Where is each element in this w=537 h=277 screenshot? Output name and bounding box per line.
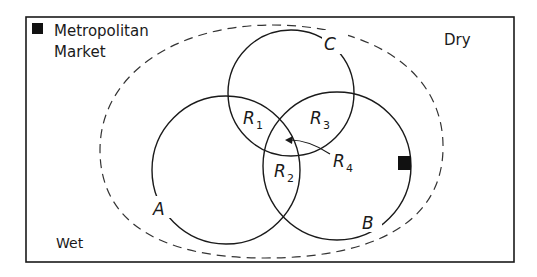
svg-text:2: 2 bbox=[287, 172, 294, 185]
arrowhead-icon bbox=[285, 136, 293, 144]
svg-text:R: R bbox=[274, 161, 286, 181]
legend-line-2: Market bbox=[54, 43, 106, 61]
legend-line-1: Metropolitan bbox=[54, 22, 149, 40]
svg-text:R: R bbox=[243, 108, 255, 128]
circle-label-a: A bbox=[152, 199, 165, 219]
circle-label-b: B bbox=[362, 213, 374, 233]
svg-text:R: R bbox=[310, 108, 322, 128]
region-r1: R 1 bbox=[243, 108, 263, 132]
market-marker-icon bbox=[398, 156, 411, 170]
svg-text:R: R bbox=[333, 151, 345, 171]
legend-square-icon bbox=[32, 23, 43, 34]
region-r4: R 4 bbox=[333, 151, 353, 175]
region-r2: R 2 bbox=[274, 161, 294, 185]
svg-text:3: 3 bbox=[323, 119, 330, 132]
wet-label: Wet bbox=[56, 235, 84, 251]
region-r3: R 3 bbox=[310, 108, 330, 132]
circle-label-c: C bbox=[324, 34, 336, 54]
svg-text:1: 1 bbox=[256, 119, 263, 132]
venn-diagram: C A B R 1 R 3 R 2 R 4 Metropolitan Marke… bbox=[0, 0, 537, 277]
dashed-boundary bbox=[100, 25, 443, 258]
svg-text:4: 4 bbox=[346, 162, 353, 175]
dry-label: Dry bbox=[444, 31, 471, 49]
